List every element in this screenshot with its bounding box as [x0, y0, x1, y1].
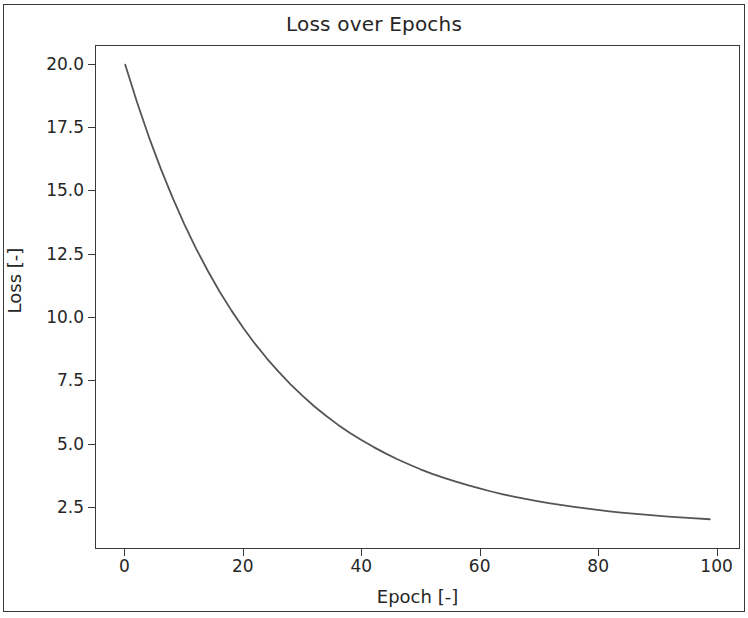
x-tick-label: 0: [119, 556, 130, 576]
x-tick-mark: [124, 549, 125, 556]
x-tick-mark: [480, 549, 481, 556]
y-tick-label-group: 2.55.07.510.012.515.017.520.0: [0, 0, 84, 618]
plot-area: [95, 45, 740, 549]
x-axis-label: Epoch [-]: [95, 586, 740, 607]
x-tick-label: 80: [587, 556, 609, 576]
y-tick-label: 5.0: [57, 434, 84, 454]
x-tick-label: 40: [350, 556, 372, 576]
y-tick-label: 10.0: [46, 307, 84, 327]
x-tick-label: 20: [232, 556, 254, 576]
y-tick-label: 20.0: [46, 54, 84, 74]
x-tick-mark: [243, 549, 244, 556]
y-tick-mark: [88, 317, 95, 318]
loss-curve-line: [125, 65, 710, 520]
figure-canvas: Loss over Epochs Loss [-] 2.55.07.510.01…: [0, 0, 748, 618]
y-tick-mark: [88, 127, 95, 128]
y-tick-mark: [88, 444, 95, 445]
x-tick-mark: [717, 549, 718, 556]
x-tick-label-group: 020406080100: [0, 556, 748, 586]
y-tick-label: 12.5: [46, 244, 84, 264]
loss-curve-svg: [96, 46, 739, 548]
x-tick-label: 100: [700, 556, 732, 576]
y-tick-label: 17.5: [46, 117, 84, 137]
y-tick-mark: [88, 380, 95, 381]
y-tick-mark: [88, 507, 95, 508]
y-tick-mark: [88, 190, 95, 191]
y-tick-label: 7.5: [57, 370, 84, 390]
y-tick-mark: [88, 64, 95, 65]
y-tick-label: 2.5: [57, 497, 84, 517]
x-tick-mark: [598, 549, 599, 556]
y-tick-mark: [88, 254, 95, 255]
chart-title: Loss over Epochs: [0, 12, 748, 36]
x-tick-mark: [361, 549, 362, 556]
x-tick-label: 60: [469, 556, 491, 576]
y-tick-label: 15.0: [46, 180, 84, 200]
